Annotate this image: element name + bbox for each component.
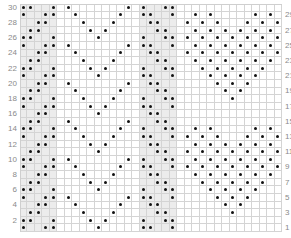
- grid-cell: [35, 224, 42, 232]
- grid-cell: [147, 202, 154, 210]
- purl-dot-icon: [239, 29, 242, 32]
- purl-dot-icon: [74, 165, 77, 168]
- grid-cell: [237, 126, 244, 134]
- grid-cell: [245, 202, 252, 210]
- grid-cell: [177, 186, 184, 194]
- grid-cell: [110, 12, 117, 20]
- grid-cell: [57, 194, 64, 202]
- grid-cell: [87, 27, 94, 35]
- purl-dot-icon: [209, 59, 212, 62]
- purl-dot-icon: [156, 51, 159, 54]
- grid-cell: [200, 4, 207, 12]
- grid-cell: [222, 194, 229, 202]
- grid-cell: [237, 209, 244, 217]
- grid-cell: [27, 126, 34, 134]
- grid-cell: [42, 217, 49, 225]
- grid-cell: [177, 110, 184, 118]
- grid-cell: [57, 42, 64, 50]
- grid-cell: [42, 80, 49, 88]
- grid-cell: [275, 164, 282, 172]
- grid-cell: [162, 27, 169, 35]
- purl-dot-icon: [82, 97, 85, 100]
- grid-cell: [35, 95, 42, 103]
- grid-cell: [275, 141, 282, 149]
- grid-cell: [185, 141, 192, 149]
- grid-cell: [57, 156, 64, 164]
- grid-cell: [230, 4, 237, 12]
- grid-cell: [170, 27, 177, 35]
- grid-cell: [27, 72, 34, 80]
- grid-cell: [125, 110, 132, 118]
- grid-cell: [245, 50, 252, 58]
- grid-cell: [267, 164, 274, 172]
- grid-cell: [162, 103, 169, 111]
- grid-cell: [27, 118, 34, 126]
- grid-cell: [42, 194, 49, 202]
- purl-dot-icon: [261, 150, 264, 153]
- grid-cell: [155, 27, 162, 35]
- grid-cell: [200, 217, 207, 225]
- grid-cell: [147, 156, 154, 164]
- purl-dot-icon: [254, 44, 257, 47]
- grid-cell: [162, 50, 169, 58]
- grid-cell: [275, 224, 282, 232]
- row-label-right: 27: [285, 27, 291, 35]
- grid-cell: [117, 179, 124, 187]
- grid-cell: [57, 148, 64, 156]
- grid-cell: [230, 88, 237, 96]
- purl-dot-icon: [164, 211, 167, 214]
- grid-cell: [80, 209, 87, 217]
- grid-cell: [87, 34, 94, 42]
- grid-cell: [80, 126, 87, 134]
- purl-dot-icon: [44, 135, 47, 138]
- grid-cell: [200, 209, 207, 217]
- purl-dot-icon: [44, 21, 47, 24]
- grid-cell: [20, 34, 27, 42]
- grid-cell: [170, 164, 177, 172]
- grid-cell: [80, 72, 87, 80]
- purl-dot-icon: [269, 127, 272, 130]
- purl-dot-icon: [37, 150, 40, 153]
- purl-dot-icon: [239, 143, 242, 146]
- grid-cell: [125, 126, 132, 134]
- grid-cell: [260, 103, 267, 111]
- grid-cell: [245, 27, 252, 35]
- grid-cell: [117, 141, 124, 149]
- grid-cell: [207, 141, 214, 149]
- purl-dot-icon: [44, 105, 47, 108]
- grid-cell: [95, 88, 102, 96]
- purl-dot-icon: [149, 173, 152, 176]
- grid-cell: [215, 171, 222, 179]
- grid-cell: [252, 57, 259, 65]
- row-label-right: 15: [285, 118, 291, 126]
- grid-cell: [95, 72, 102, 80]
- grid-cell: [245, 95, 252, 103]
- purl-dot-icon: [239, 203, 242, 206]
- grid-cell: [50, 141, 57, 149]
- grid-cell: [200, 126, 207, 134]
- purl-dot-icon: [156, 89, 159, 92]
- purl-dot-icon: [149, 105, 152, 108]
- grid-cell: [252, 50, 259, 58]
- grid-cell: [125, 57, 132, 65]
- grid-cell: [95, 110, 102, 118]
- purl-dot-icon: [171, 196, 174, 199]
- grid-cell: [230, 141, 237, 149]
- grid-cell: [215, 50, 222, 58]
- grid-cell: [125, 194, 132, 202]
- grid-cell: [252, 34, 259, 42]
- grid-cell: [57, 141, 64, 149]
- grid-cell: [147, 19, 154, 27]
- grid-cell: [155, 141, 162, 149]
- purl-dot-icon: [254, 13, 257, 16]
- row-label-left: 22: [2, 65, 17, 73]
- grid-cell: [192, 217, 199, 225]
- grid-cell: [110, 65, 117, 73]
- grid-cell: [200, 72, 207, 80]
- grid-cell: [222, 42, 229, 50]
- grid-cell: [125, 42, 132, 50]
- grid-cell: [42, 27, 49, 35]
- purl-dot-icon: [142, 67, 145, 70]
- grid-cell: [95, 95, 102, 103]
- grid-cell: [222, 4, 229, 12]
